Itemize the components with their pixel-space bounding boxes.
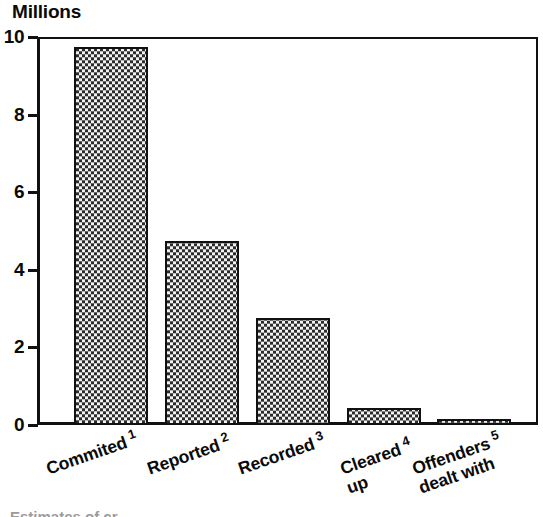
category-label-5: Offenders5dealt with	[408, 425, 510, 497]
bar-3	[256, 318, 330, 425]
y-tick-mark-8	[28, 114, 38, 117]
y-tick-label-10: 10	[0, 27, 24, 46]
category-label-2: Reported2	[143, 427, 233, 479]
category-footnote-2: 2	[219, 429, 231, 446]
bar-1	[74, 47, 148, 425]
category-footnote-4: 4	[400, 433, 412, 450]
bar-4	[347, 408, 421, 425]
category-label-3: Recorded3	[234, 426, 328, 479]
category-label-line1: Recorded3	[234, 426, 328, 479]
category-label-line1: Commited1	[42, 424, 140, 478]
bar-chart: Millions 1086420 Commited1Reported2Recor…	[0, 0, 543, 517]
y-tick-mark-6	[28, 191, 38, 194]
y-tick-label-2: 2	[0, 337, 24, 356]
y-tick-label-4: 4	[0, 260, 24, 279]
bottom-clipped-caption: Estimates of cr	[10, 508, 430, 517]
y-tick-label-0: 0	[0, 415, 24, 434]
y-tick-mark-2	[28, 346, 38, 349]
category-footnote-3: 3	[313, 427, 325, 444]
y-tick-mark-10	[28, 36, 38, 39]
y-tick-label-6: 6	[0, 182, 24, 201]
bar-2	[165, 241, 239, 425]
y-tick-label-8: 8	[0, 105, 24, 124]
category-label-1: Commited1	[42, 424, 140, 478]
y-tick-mark-4	[28, 269, 38, 272]
category-footnote-1: 1	[126, 426, 138, 443]
category-footnote-5: 5	[489, 427, 501, 444]
category-label-4: Cleared4up	[336, 431, 421, 497]
bar-5	[437, 419, 511, 425]
category-label-line1: Reported2	[143, 427, 233, 479]
y-tick-mark-0	[28, 424, 38, 427]
chart-axis-title: Millions	[12, 1, 81, 23]
